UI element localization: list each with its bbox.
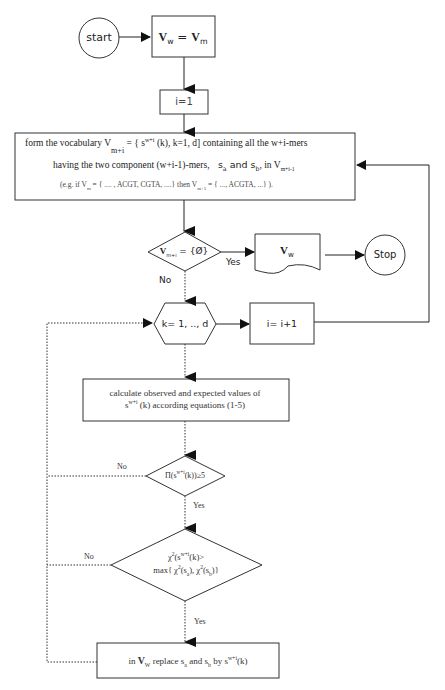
empty-yes-label: Yes <box>226 258 241 267</box>
product-yes-label: Yes <box>193 502 205 510</box>
empty-no-label: No <box>159 276 171 285</box>
product-check-label: Π(sw+i(k))≥5 <box>165 472 205 480</box>
form-vocab-line3: (e.g. if Vm = { .... , ACGT, CGTA, ....}… <box>60 181 273 189</box>
start-label: start <box>86 32 112 43</box>
incr-i-label: i= i+1 <box>267 319 297 329</box>
product-no-label: No <box>117 463 127 471</box>
form-vocab-line2: having the two component (w+i-1)-mers, s… <box>53 160 295 171</box>
chi-no-label: No <box>84 553 94 561</box>
calc-line1: calculate observed and expected values o… <box>109 389 260 398</box>
empty-check-label: Vm+i = {Ø} <box>160 247 209 256</box>
init-i-label: i=1 <box>175 97 193 107</box>
chi-check-line2: max{ χ2(sa), χ2(sb)} <box>153 566 218 575</box>
chi-check-line1: χ2(sw+i(k)> <box>168 553 204 562</box>
flowchart-canvas <box>0 0 445 690</box>
output-doc-label: Vw <box>280 245 294 256</box>
loop-k-label: k= 1, .., d <box>162 319 209 329</box>
chi-yes-label: Yes <box>194 618 206 626</box>
form-vocab-line1: form the vocabulary Vm+i = { sw+i (k), k… <box>25 139 307 149</box>
stop-label: Stop <box>374 250 397 260</box>
replace-label: in VW replace sa and sb by sw+i(k) <box>128 656 247 666</box>
init-vocab-label: Vw = Vm <box>158 31 207 43</box>
calc-line2: sw+i (k) according equations (1-5) <box>125 401 245 410</box>
